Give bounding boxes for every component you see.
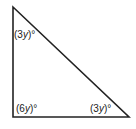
triangle-shape [13, 7, 129, 117]
angle-label-top: (3y)° [14, 30, 35, 40]
angle-label-bottom-left: (6y)° [16, 104, 37, 114]
angle-label-bottom-right: (3y)° [90, 104, 111, 114]
